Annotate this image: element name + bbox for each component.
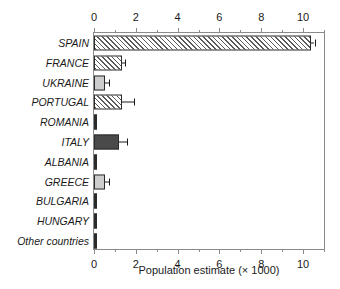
error-bar-cap <box>125 59 126 66</box>
axis-tick <box>178 249 179 254</box>
axis-tick <box>199 30 200 33</box>
axis-tick <box>136 28 137 33</box>
bar-portugal <box>94 95 122 110</box>
axis-tick <box>324 30 325 33</box>
category-label-france: FRANCE <box>46 57 89 68</box>
axis-tick <box>282 30 283 33</box>
axis-tick <box>136 249 137 254</box>
x-tick-label-top: 6 <box>216 11 222 23</box>
axis-tick <box>324 249 325 252</box>
category-label-other-countries: Other countries <box>17 236 89 247</box>
bar-italy <box>94 135 119 150</box>
bar-spain <box>94 35 311 50</box>
bar-greece <box>94 174 105 189</box>
category-label-bulgaria: BULGARIA <box>36 196 89 207</box>
axis-tick <box>115 249 116 252</box>
category-label-portugal: PORTUGAL <box>31 97 89 108</box>
plot-area: 00224466881010 SPAINFRANCEUKRAINEPORTUGA… <box>93 32 325 250</box>
category-label-albania: ALBANIA <box>45 157 89 168</box>
axis-tick <box>219 28 220 33</box>
population-estimate-bar-chart: 00224466881010 SPAINFRANCEUKRAINEPORTUGA… <box>0 0 340 289</box>
x-tick-label-top: 2 <box>133 11 139 23</box>
axis-tick <box>219 249 220 254</box>
bar-other-countries <box>94 234 97 249</box>
error-bar-italy <box>119 142 127 143</box>
bar-bulgaria <box>94 194 97 209</box>
category-label-greece: GREECE <box>45 176 89 187</box>
axis-tick <box>157 30 158 33</box>
axis-tick <box>282 249 283 252</box>
bar-albania <box>94 154 97 169</box>
axis-tick <box>240 30 241 33</box>
x-tick-label-top: 4 <box>175 11 181 23</box>
axis-tick <box>261 28 262 33</box>
x-tick-label-top: 8 <box>258 11 264 23</box>
category-label-italy: ITALY <box>62 137 89 148</box>
category-label-ukraine: UKRAINE <box>42 77 89 88</box>
axis-tick <box>199 249 200 252</box>
axis-tick <box>240 249 241 252</box>
axis-tick <box>303 249 304 254</box>
bar-france <box>94 55 122 70</box>
bar-hungary <box>94 214 97 229</box>
x-axis-title: Population estimate (× 1000) <box>93 264 325 276</box>
axis-tick <box>178 28 179 33</box>
axis-tick <box>261 249 262 254</box>
axis-tick <box>157 249 158 252</box>
error-bar-cap <box>315 39 316 46</box>
category-label-spain: SPAIN <box>58 38 89 49</box>
error-bar-cap <box>127 139 128 146</box>
axis-tick <box>115 30 116 33</box>
bar-romania <box>94 115 97 130</box>
axis-tick <box>303 28 304 33</box>
category-label-romania: ROMANIA <box>40 117 89 128</box>
error-bar-portugal <box>122 102 133 103</box>
bar-ukraine <box>94 75 105 90</box>
error-bar-cap <box>109 79 110 86</box>
axis-tick <box>94 249 95 254</box>
axis-tick <box>94 28 95 33</box>
error-bar-cap <box>109 178 110 185</box>
x-tick-label-top: 10 <box>297 11 309 23</box>
x-tick-label-top: 0 <box>91 11 97 23</box>
category-label-hungary: HUNGARY <box>37 216 89 227</box>
error-bar-cap <box>134 99 135 106</box>
